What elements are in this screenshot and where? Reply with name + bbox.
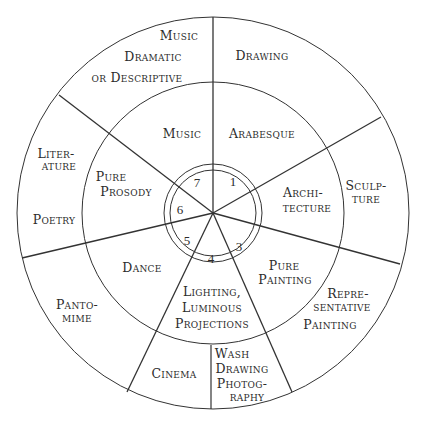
label-pure-prosody-2: Prosody bbox=[100, 184, 152, 199]
label-cinema: Cinema bbox=[151, 366, 196, 381]
segment-number-3: 3 bbox=[236, 239, 243, 254]
label-music-outer-3: or Descriptive bbox=[92, 70, 183, 85]
label-lighting-1: Lighting, bbox=[183, 284, 241, 299]
segment-number-1: 1 bbox=[230, 174, 237, 189]
label-pure-painting-2: Painting bbox=[258, 272, 311, 287]
label-representative-3: Painting bbox=[303, 317, 356, 332]
arts-wheel-diagram: 1 3 4 5 6 7 Music Dramatic or Descriptiv… bbox=[0, 0, 421, 426]
label-music-outer-2: Dramatic bbox=[124, 49, 181, 64]
label-arabesque: Arabesque bbox=[228, 126, 295, 141]
label-music-outer-1: Music bbox=[160, 28, 199, 43]
segment-number-6: 6 bbox=[177, 202, 184, 217]
label-literature-2: ature bbox=[41, 158, 76, 173]
label-wash-4: raphy bbox=[230, 389, 265, 404]
label-wash-1: Wash bbox=[215, 346, 250, 361]
label-pantomime-2: mime bbox=[62, 310, 92, 325]
label-sculpture-2: ture bbox=[352, 191, 380, 206]
segment-number-5: 5 bbox=[184, 233, 191, 248]
label-drawing: Drawing bbox=[236, 48, 289, 63]
label-wash-2: Drawing bbox=[216, 361, 269, 376]
label-pure-painting-1: Pure bbox=[269, 258, 300, 273]
label-architecture-2: tecture bbox=[283, 200, 332, 215]
label-lighting-3: Projections bbox=[175, 316, 249, 331]
segment-number-4: 4 bbox=[208, 251, 215, 266]
label-architecture-1: Archi- bbox=[282, 185, 323, 200]
label-lighting-2: Luminous bbox=[182, 300, 242, 315]
label-pure-prosody-1: Pure bbox=[96, 169, 127, 184]
label-representative-2: sentative bbox=[313, 299, 370, 314]
label-dance: Dance bbox=[122, 260, 161, 275]
segment-number-7: 7 bbox=[194, 175, 201, 190]
label-music-inner: Music bbox=[163, 126, 202, 141]
label-poetry: Poetry bbox=[33, 212, 76, 227]
